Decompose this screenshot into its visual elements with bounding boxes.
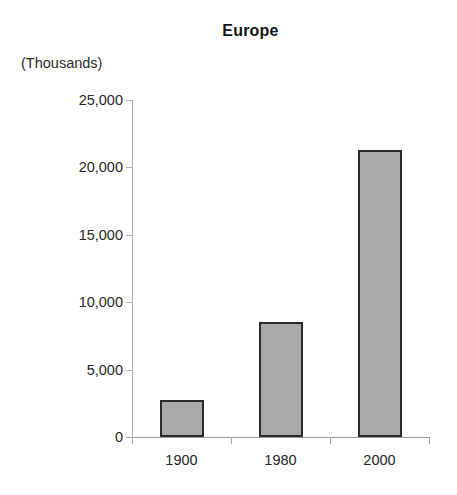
x-axis-tick-mark <box>132 437 133 444</box>
x-axis-tick-label: 1900 <box>132 452 231 468</box>
x-axis-tick-label: 2000 <box>330 452 429 468</box>
y-axis-tick-label: 15,000 <box>13 227 123 243</box>
bar-1900 <box>160 400 204 437</box>
y-axis-tick-label: 20,000 <box>13 159 123 175</box>
x-axis-line <box>132 437 429 438</box>
y-axis-tick-labels: 05,00010,00015,00020,00025,000 <box>13 0 123 495</box>
x-axis-tick-mark <box>231 437 232 444</box>
x-axis-tick-mark <box>429 437 430 444</box>
x-axis-tick-mark <box>330 437 331 444</box>
bar-1980 <box>259 322 303 437</box>
plot-area <box>132 100 429 437</box>
y-axis-tick-label: 0 <box>13 429 123 445</box>
y-axis-tick-label: 5,000 <box>13 362 123 378</box>
y-axis-tick-label: 10,000 <box>13 294 123 310</box>
bar-2000 <box>358 150 402 437</box>
y-axis-tick-label: 25,000 <box>13 92 123 108</box>
x-axis-tick-label: 1980 <box>231 452 330 468</box>
